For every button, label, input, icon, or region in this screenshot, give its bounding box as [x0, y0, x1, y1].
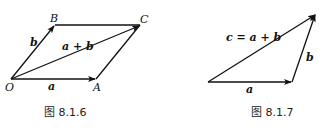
- point-label-c: C: [140, 13, 149, 26]
- vector-label-sum: a + b: [62, 40, 94, 53]
- caption-figure-8-1-6: 图 8.1.6: [44, 103, 87, 119]
- vector-label-a: a: [48, 80, 55, 93]
- point-label-a: A: [92, 81, 101, 94]
- vector-label-a: a: [246, 83, 253, 96]
- vector-label-b: b: [30, 36, 38, 49]
- caption-figure-8-1-7: 图 8.1.7: [251, 103, 294, 119]
- vector-c-arrow: [208, 15, 315, 82]
- side-ac: [96, 25, 140, 79]
- figure-triangle: c = a + b b a: [208, 15, 315, 96]
- vector-b-arrow: [11, 26, 54, 79]
- point-label-o: O: [5, 81, 14, 94]
- vector-label-b: b: [306, 51, 314, 64]
- figure-parallelogram: B C O A a b a + b: [5, 12, 149, 94]
- vector-label-sum: c = a + b: [226, 31, 282, 44]
- point-label-b: B: [49, 12, 58, 25]
- vector-b-arrow: [292, 15, 315, 82]
